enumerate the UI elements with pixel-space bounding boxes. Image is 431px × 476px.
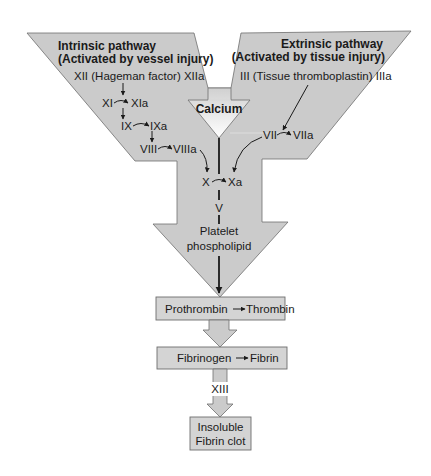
factor-xia-label: XIa	[131, 97, 149, 109]
platelet-label: Platelet	[200, 225, 239, 237]
coagulation-cascade-diagram: Intrinsic pathway (Activated by vessel i…	[0, 0, 431, 476]
factor-viii-label: VIII	[140, 143, 157, 155]
block-arrow-thrombin-to-fibrinogen	[203, 320, 237, 347]
factor-xi-label: XI	[102, 97, 113, 109]
extrinsic-heading: Extrinsic pathway	[281, 37, 383, 51]
prothrombin-label: Prothrombin	[165, 303, 228, 315]
factor-ix-label: IX	[121, 120, 132, 132]
insoluble-label: Insoluble	[197, 421, 243, 433]
thrombin-label: Thrombin	[246, 303, 295, 315]
intrinsic-heading: Intrinsic pathway	[58, 39, 156, 53]
fibrinogen-label: Fibrinogen	[177, 352, 231, 364]
factor-v-label: V	[215, 202, 223, 214]
fibrin-clot-label: Fibrin clot	[196, 435, 247, 447]
factor-xa-label: Xa	[228, 176, 243, 188]
factor-x-label: X	[202, 176, 210, 188]
factor-xiii-label: XIII	[211, 383, 228, 395]
fibrin-label: Fibrin	[250, 352, 279, 364]
extrinsic-subheading: (Activated by tissue injury)	[232, 50, 385, 64]
phospholipid-label: phospholipid	[187, 240, 252, 252]
factor-vii-label: VII	[263, 129, 277, 141]
intrinsic-subheading: (Activated by vessel injury)	[58, 52, 213, 66]
calcium-label: Calcium	[196, 102, 243, 116]
factor-iii-label: III (Tissue thromboplastin) IIIa	[240, 70, 392, 82]
factor-ixa-label: IXa	[150, 120, 168, 132]
factor-viiia-label: VIIIa	[173, 143, 197, 155]
factor-xii-label: XII (Hageman factor) XIIa	[74, 70, 205, 82]
factor-viia-label: VIIa	[293, 129, 314, 141]
